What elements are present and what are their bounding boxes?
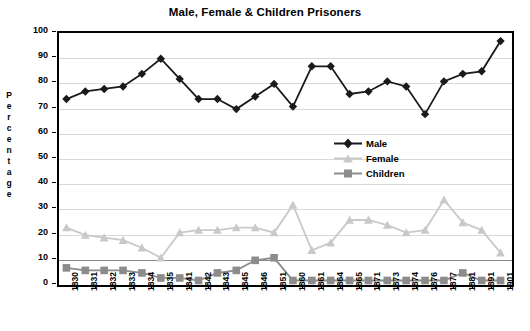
x-tick-label: 1881 — [467, 272, 477, 291]
y-tick-mark — [52, 233, 56, 234]
y-tick-label: 10 — [22, 252, 48, 262]
y-tick-mark — [52, 31, 56, 32]
data-point-marker — [346, 277, 354, 285]
data-point-marker — [497, 277, 505, 285]
series-line — [66, 200, 500, 258]
data-point-marker — [233, 267, 241, 275]
data-point-marker — [82, 267, 90, 275]
y-tick-label: 40 — [22, 176, 48, 186]
y-tick-label: 70 — [22, 101, 48, 111]
x-tick-label: 1843 — [221, 272, 231, 291]
x-tick-label: 1877 — [448, 272, 458, 291]
x-tick-label: 1873 — [391, 272, 401, 291]
data-point-marker — [100, 267, 108, 275]
data-point-marker — [440, 195, 449, 203]
data-point-marker — [63, 264, 71, 272]
y-tick-mark — [52, 207, 56, 208]
y-axis-title: Percentage — [2, 90, 16, 200]
data-point-marker — [289, 200, 298, 208]
data-point-marker — [477, 67, 485, 75]
chart-container: Male, Female & Children Prisoners Percen… — [0, 0, 530, 331]
y-tick-label: 80 — [22, 75, 48, 85]
data-point-marker — [138, 269, 146, 277]
data-point-marker — [270, 254, 278, 262]
data-point-marker — [384, 277, 392, 285]
data-point-marker — [195, 277, 203, 285]
x-tick-label: 1841 — [184, 272, 194, 291]
y-tick-label: 20 — [22, 227, 48, 237]
legend-label-male: Male — [366, 137, 387, 150]
y-tick-mark — [52, 107, 56, 108]
data-point-marker — [478, 277, 486, 285]
data-point-marker — [421, 277, 429, 285]
x-tick-label: 1846 — [259, 272, 269, 291]
data-point-marker — [440, 277, 448, 285]
data-point-marker — [289, 277, 297, 285]
data-point-marker — [62, 223, 71, 231]
data-point-marker — [327, 277, 335, 285]
legend-label-female: Female — [366, 152, 399, 165]
series-female — [62, 195, 505, 261]
y-tick-mark — [52, 56, 56, 57]
data-point-marker — [308, 277, 316, 285]
x-tick-label: 1845 — [240, 272, 250, 291]
x-tick-label: 1830 — [70, 272, 80, 291]
series-male — [62, 37, 505, 118]
chart-title: Male, Female & Children Prisoners — [0, 6, 530, 18]
y-tick-label: 90 — [22, 50, 48, 60]
y-tick-label: 100 — [22, 25, 48, 35]
data-point-marker — [402, 277, 410, 285]
data-point-marker — [176, 274, 184, 282]
x-tick-label: 1874 — [410, 272, 420, 291]
data-point-marker — [364, 87, 372, 95]
x-tick-label: 1901 — [505, 272, 515, 291]
data-point-marker — [157, 274, 165, 282]
legend-item-male: Male — [333, 136, 443, 151]
y-tick-label: 0 — [22, 277, 48, 287]
x-tick-label: 1834 — [146, 272, 156, 291]
series-line — [66, 41, 500, 114]
x-tick-label: 1865 — [354, 272, 364, 291]
x-tick-label: 1876 — [429, 272, 439, 291]
chart-legend: Male Female Children — [333, 136, 443, 181]
x-tick-label: 1860 — [297, 272, 307, 291]
data-point-marker — [459, 269, 467, 277]
children-marker-icon — [333, 167, 363, 180]
data-point-marker — [308, 62, 316, 70]
legend-label-children: Children — [366, 167, 405, 180]
y-tick-mark — [52, 132, 56, 133]
x-tick-label: 1835 — [165, 272, 175, 291]
x-tick-label: 1851 — [278, 272, 288, 291]
y-tick-mark — [52, 157, 56, 158]
y-tick-mark — [52, 258, 56, 259]
data-point-marker — [119, 267, 127, 275]
x-tick-label: 1871 — [372, 272, 382, 291]
x-tick-label: 1891 — [486, 272, 496, 291]
data-point-marker — [100, 85, 108, 93]
data-point-marker — [81, 87, 89, 95]
x-tick-label: 1861 — [316, 272, 326, 291]
data-point-marker — [251, 257, 259, 265]
data-point-marker — [459, 70, 467, 78]
y-tick-mark — [52, 283, 56, 284]
x-tick-label: 1864 — [335, 272, 345, 291]
data-point-marker — [62, 95, 70, 103]
y-tick-label: 60 — [22, 126, 48, 136]
data-point-marker — [496, 37, 504, 45]
x-tick-label: 1833 — [127, 272, 137, 291]
male-marker-icon — [333, 137, 363, 150]
legend-item-female: Female — [333, 151, 443, 166]
data-point-marker — [440, 77, 448, 85]
legend-item-children: Children — [333, 166, 443, 181]
female-marker-icon — [333, 152, 363, 165]
x-tick-label: 1842 — [203, 272, 213, 291]
data-point-marker — [213, 95, 221, 103]
y-tick-label: 30 — [22, 201, 48, 211]
y-tick-mark — [52, 81, 56, 82]
x-tick-label: 1831 — [89, 272, 99, 291]
data-point-marker — [383, 77, 391, 85]
y-tick-mark — [52, 182, 56, 183]
y-tick-label: 50 — [22, 151, 48, 161]
x-tick-label: 1832 — [108, 272, 118, 291]
